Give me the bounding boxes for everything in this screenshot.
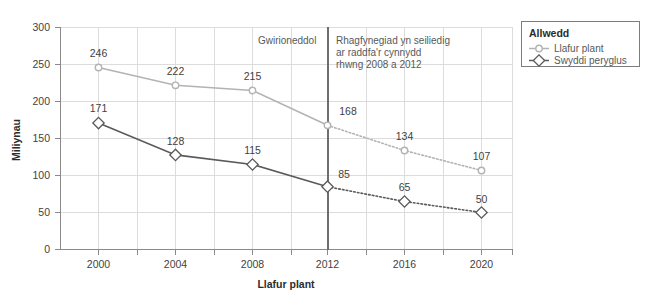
series-swyddi-peryglus: 171 128 115 85 65 50 xyxy=(90,102,488,218)
series2-label-2012: 85 xyxy=(338,168,350,180)
series2-point-2016 xyxy=(399,196,410,207)
legend: Allwedd Llafur plant Swyddi peryglus xyxy=(522,22,640,67)
y-tick-250: 250 xyxy=(32,58,50,70)
x-tick-2000: 2000 xyxy=(87,258,111,270)
series2-markers xyxy=(93,117,487,218)
series2-point-2020 xyxy=(476,207,487,218)
series2-point-2012 xyxy=(322,181,333,192)
chart-container: 300 250 200 150 100 50 0 2000 2004 2008 … xyxy=(0,0,648,299)
series2-point-2008 xyxy=(247,159,258,170)
y-tick-300: 300 xyxy=(32,21,50,33)
series2-point-2000 xyxy=(93,117,104,128)
annotation-forecast-line1: Rhagfynegiad yn seiliedig xyxy=(336,35,450,46)
annotation-actual: Gwirioneddol xyxy=(258,35,316,46)
y-tick-0: 0 xyxy=(44,243,50,255)
y-tick-200: 200 xyxy=(32,95,50,107)
series1-label-2008: 215 xyxy=(244,70,262,82)
series2-label-2016: 65 xyxy=(399,181,411,193)
series1-label-2004: 222 xyxy=(167,65,185,77)
annotation-forecast-line3: rhwng 2008 a 2012 xyxy=(336,59,422,70)
series2-label-2020: 50 xyxy=(476,193,488,205)
series1-point-2020 xyxy=(478,167,484,173)
legend-title: Allwedd xyxy=(529,27,569,39)
series2-label-2008: 115 xyxy=(244,144,261,156)
series1-point-2008 xyxy=(249,87,255,93)
x-tick-2012: 2012 xyxy=(316,258,340,270)
x-tick-2016: 2016 xyxy=(393,258,417,270)
y-axis-title: Miliynau xyxy=(10,119,22,161)
series1-label-2016: 134 xyxy=(396,130,414,142)
series1-point-2012 xyxy=(324,122,330,128)
series1-point-2000 xyxy=(95,64,101,70)
series1-label-2012: 168 xyxy=(339,105,357,117)
x-axis-title: Llafur plant xyxy=(257,278,315,290)
y-tick-50: 50 xyxy=(38,206,50,218)
x-axis-ticks xyxy=(99,250,513,256)
series2-label-2000: 171 xyxy=(90,102,108,114)
series1-solid-segment xyxy=(99,68,328,126)
series1-label-2020: 107 xyxy=(473,150,491,162)
series1-point-2016 xyxy=(401,147,407,153)
y-axis-ticks xyxy=(55,28,61,250)
legend-marker-circle-icon xyxy=(536,45,542,51)
legend-label-series1: Llafur plant xyxy=(554,43,604,54)
series2-label-2004: 128 xyxy=(167,135,185,147)
series-llafur-plant: 246 222 215 168 134 107 xyxy=(90,47,491,174)
series2-solid-segment xyxy=(99,123,328,187)
horizontal-gridlines xyxy=(61,28,513,213)
x-tick-2020: 2020 xyxy=(470,258,494,270)
x-tick-2008: 2008 xyxy=(241,258,265,270)
series1-point-2004 xyxy=(172,82,178,88)
legend-label-series2: Swyddi peryglus xyxy=(554,55,627,66)
series2-point-2004 xyxy=(170,149,181,160)
x-tick-2004: 2004 xyxy=(164,258,188,270)
annotation-forecast-line2: ar raddfa'r cynnydd xyxy=(336,47,421,58)
y-tick-150: 150 xyxy=(32,132,50,144)
y-tick-100: 100 xyxy=(32,169,50,181)
line-chart: 300 250 200 150 100 50 0 2000 2004 2008 … xyxy=(0,0,648,299)
series1-label-2000: 246 xyxy=(90,47,108,59)
